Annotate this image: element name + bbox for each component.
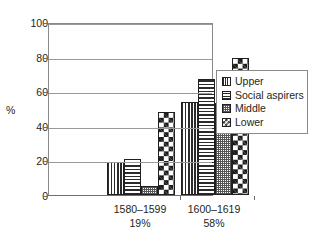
legend-swatch-lower-icon <box>222 118 231 127</box>
gridline <box>49 128 212 129</box>
x-axis-tick-mark <box>254 196 255 200</box>
legend-item-middle: Middle <box>222 102 303 115</box>
bar-middle-1580–1599 <box>141 186 158 195</box>
plot-area <box>48 23 213 196</box>
legend-label-lower: Lower <box>235 117 264 128</box>
legend-swatch-upper-icon <box>222 77 231 86</box>
legend-label-social-aspirers: Social aspirers <box>235 90 304 101</box>
y-axis: % 020406080100 <box>0 0 48 237</box>
bar-social-aspirers-1600–1619 <box>198 79 215 195</box>
x-axis-label-percent: 58% <box>169 216 259 230</box>
bar-lower-1580–1599 <box>158 112 175 195</box>
legend-item-lower: Lower <box>222 116 303 129</box>
legend-item-social-aspirers: Social aspirers <box>222 89 303 102</box>
bars-layer <box>49 24 212 195</box>
x-axis-group-label: 1600–161958% <box>169 202 259 230</box>
legend-label-upper: Upper <box>235 76 264 87</box>
y-axis-tick-mark <box>44 196 48 197</box>
bar-social-aspirers-1580–1599 <box>124 159 141 195</box>
legend: Upper Social aspirers Middle Lower <box>216 70 308 134</box>
legend-swatch-social-aspirers-icon <box>222 91 231 100</box>
legend-label-middle: Middle <box>235 103 266 114</box>
legend-swatch-middle-icon <box>222 104 231 113</box>
legend-item-upper: Upper <box>222 75 303 88</box>
gridline <box>49 93 212 94</box>
x-axis-tick-mark <box>180 196 181 200</box>
y-axis-title: % <box>6 104 15 116</box>
bar-upper-1600–1619 <box>181 102 198 195</box>
gridline <box>49 24 212 25</box>
x-axis-label-period: 1600–1619 <box>188 203 241 215</box>
bar-upper-1580–1599 <box>107 162 124 195</box>
x-axis-label-period: 1580–1599 <box>114 203 167 215</box>
bar-chart: % 020406080100 1580–159919%1600–161958% … <box>0 0 312 237</box>
gridline <box>49 162 212 163</box>
gridline <box>49 59 212 60</box>
